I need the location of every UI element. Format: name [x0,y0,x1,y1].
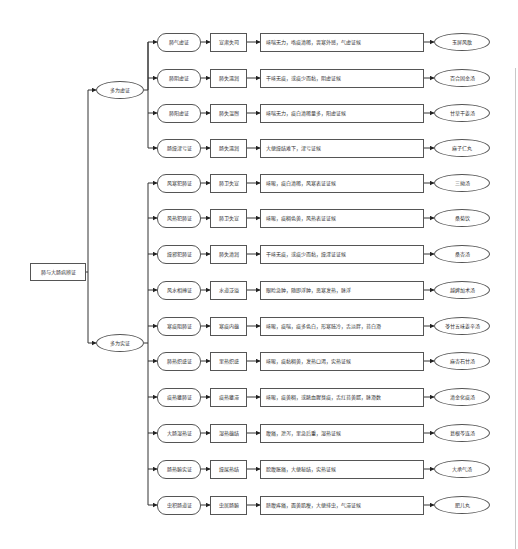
mechanism-node: 痰热壅滞 [210,388,247,407]
symptoms-node: 咳嗽，痰喘，痰多色白，形寒肢冷，舌淡胖，苔白滑 [260,317,424,336]
mechanism-node: 肺失濡润 [210,69,247,88]
symptoms-node: 咳喘无力，痰白清稀量多，阳虚证候 [260,104,424,123]
pattern-node: 痰热壅肺证 [157,388,201,407]
symptoms-node: 腹痛，泄泻，里急后重，湿热证候 [260,424,424,443]
mechanism-node: 肺卫失宣 [210,174,247,193]
formula-node: 大承气汤 [434,460,490,478]
root-node: 肺与大肠病辨证 [30,263,86,281]
pattern-node: 燥邪犯肺证 [157,245,201,264]
mechanism-node: 湿热蕴结 [210,424,247,443]
pattern-node: 大肠湿热证 [157,424,201,443]
symptoms-node: 眼睑急肿，随即浮肿，恶寒发热，脉浮 [260,281,424,300]
pattern-node: 风水相搏证 [157,281,201,300]
symptoms-node: 咳嗽，痰黄稠，或脓血腥臭痰，舌红苔黄腻，脉滑数 [260,388,424,407]
mechanism-node: 肠失濡润 [210,139,247,158]
symptoms-node: 咳嗽，痰白清稀，风寒表证证候 [260,174,424,193]
mechanism-node: 水道泛溢 [210,281,247,300]
group-node-deficiency: 多为虚证 [96,81,144,99]
pattern-node: 肺气虚证 [157,33,201,52]
symptoms-node: 干咳无痰，或痰少而黏，燥淫证证候 [260,245,424,264]
pattern-node: 肺阳虚证 [157,104,201,123]
formula-node: 越婢加术汤 [434,281,490,299]
pattern-node: 肺阴虚证 [157,69,201,88]
formula-node: 桑菊饮 [434,209,490,227]
formula-node: 桑杏汤 [434,245,490,263]
symptoms-node: 咳嗽，痰稠色黄，风热表证证候 [260,209,424,228]
pattern-node: 肠热腑实证 [157,460,201,479]
pattern-node: 风寒犯肺证 [157,174,201,193]
formula-node: 甘草干姜汤 [434,104,490,122]
formula-node: 玉屏风散 [434,33,490,51]
symptoms-node: 咳喘无力，咯痰清稀，畏寒外感，气虚证候 [260,33,424,52]
mechanism-node: 肺失清润 [210,245,247,264]
symptoms-node: 脘腹胀痛，大便秘结，实热证候 [260,460,424,479]
pattern-node: 肺热炽盛证 [157,352,201,371]
pattern-node: 肠燥津亏证 [157,139,201,158]
symptoms-node: 大便燥结难下，津亏证候 [260,139,424,158]
formula-node: 苓甘五味姜辛汤 [434,317,490,335]
mechanism-node: 里热炽盛 [210,352,247,371]
mechanism-node: 虫居肠腑 [210,496,247,515]
group-node-excess: 多为实证 [96,334,144,352]
formula-node: 清金化痰汤 [434,388,490,406]
formula-node: 葛根芩连汤 [434,424,490,442]
mechanism-node: 宣肃失司 [210,33,247,52]
formula-node: 百合固金汤 [434,69,490,87]
formula-node: 麻子仁丸 [434,139,490,157]
pattern-node: 寒痰阻肺证 [157,317,201,336]
mechanism-node: 肺失温煦 [210,104,247,123]
mechanism-node: 肺卫失宣 [210,209,247,228]
mechanism-node: 寒痰内蕴 [210,317,247,336]
symptoms-node: 脐腹疼痛，面黄肌瘦，大便排虫，气滞证候 [260,496,424,515]
pattern-node: 虫积肠道证 [157,496,201,515]
pattern-node: 风热犯肺证 [157,209,201,228]
formula-node: 三拗汤 [434,174,490,192]
formula-node: 麻杏石甘汤 [434,352,490,370]
symptoms-node: 咳嗽，痰黏稠黄，发热口渴，实热证候 [260,352,424,371]
mechanism-node: 燥屎热结 [210,460,247,479]
formula-node: 肥儿丸 [434,496,490,514]
page-edge-divider [515,68,516,549]
symptoms-node: 干咳无痰，或痰少而黏，阴虚证候 [260,69,424,88]
